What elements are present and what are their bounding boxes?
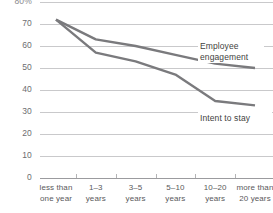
y-axis-tick-label: 10 <box>0 151 32 160</box>
y-axis-tick-label: 70 <box>0 19 32 28</box>
y-axis-tick-label: 40 <box>0 85 32 94</box>
y-axis-tick-label: 60 <box>0 41 32 50</box>
y-axis-tick-label: 80% <box>0 0 32 6</box>
y-axis-tick-label: 20 <box>0 129 32 138</box>
x-axis-tick-mark <box>235 174 236 178</box>
series-lines <box>40 2 273 178</box>
x-axis-tick-mark <box>156 174 157 178</box>
y-axis-tick-label: 30 <box>0 107 32 116</box>
y-axis-tick-label: 50 <box>0 63 32 72</box>
y-axis-tick-label: 0 <box>0 173 32 182</box>
plot-area <box>40 2 273 178</box>
x-axis-category-text: more than 20 years <box>231 178 273 204</box>
x-axis-labels: less than one year1–3 years3–5 years5–10… <box>40 178 273 213</box>
line-chart: 80%706050403020100 less than one year1–3… <box>0 0 273 213</box>
x-axis-tick-mark <box>195 174 196 178</box>
annotation-employee-engagement: Employee engagement <box>198 40 264 63</box>
annotation-intent-to-stay: Intent to stay <box>198 112 272 125</box>
x-axis-tick-mark <box>76 174 77 178</box>
x-axis-tick-mark <box>116 174 117 178</box>
x-axis-category-label: more than 20 years <box>231 178 273 204</box>
